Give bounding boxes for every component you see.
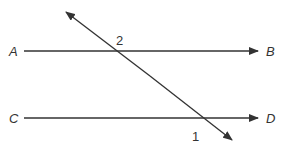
- label-d: D: [266, 111, 275, 126]
- label-b: B: [266, 44, 275, 59]
- angle-1-label: 1: [192, 129, 199, 144]
- angle-2-label: 2: [116, 33, 123, 48]
- diagram-svg: A B C D 2 1: [0, 0, 286, 154]
- label-a: A: [8, 44, 18, 59]
- transversal-lower-ray: [150, 76, 232, 140]
- diagram-canvas: A B C D 2 1: [0, 0, 286, 154]
- transversal-upper-ray: [66, 12, 150, 76]
- label-c: C: [9, 111, 19, 126]
